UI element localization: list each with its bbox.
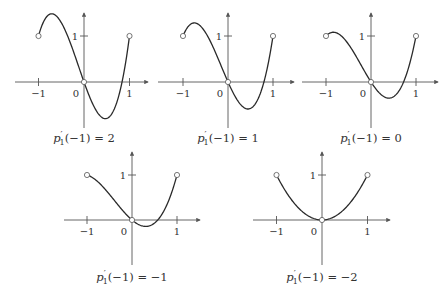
- x-tick-label: 1: [364, 226, 370, 237]
- x-tick-label: 1: [126, 88, 132, 99]
- open-point-marker: [129, 217, 134, 222]
- open-point-marker: [36, 33, 41, 38]
- y-tick-label: 1: [216, 31, 222, 42]
- open-point-marker: [84, 172, 89, 177]
- plot-panel: −1110p′1(−1) = −1: [64, 152, 200, 286]
- x-tick-label: −1: [269, 226, 284, 237]
- open-point-marker: [323, 33, 328, 38]
- origin-label: 0: [217, 88, 223, 99]
- panel-caption: p′1(−1) = −2: [286, 269, 357, 286]
- origin-label: 0: [121, 226, 127, 237]
- panel-caption: p′1(−1) = 2: [53, 130, 115, 147]
- open-point-marker: [81, 79, 86, 84]
- plot-panel: −1110p′1(−1) = −2: [253, 152, 390, 286]
- open-point-marker: [319, 217, 324, 222]
- plot-panel: −1110p′1(−1) = 2: [15, 13, 148, 147]
- plot-panel: −1110p′1(−1) = 0: [302, 13, 438, 147]
- open-point-marker: [127, 33, 132, 38]
- open-point-marker: [365, 172, 370, 177]
- x-tick-label: 1: [174, 226, 180, 237]
- y-tick-label: 1: [359, 31, 365, 42]
- origin-label: 0: [73, 88, 79, 99]
- origin-label: 0: [311, 226, 317, 237]
- panel-caption: p′1(−1) = 1: [197, 130, 259, 147]
- origin-label: 0: [360, 88, 366, 99]
- x-tick-label: −1: [319, 88, 334, 99]
- y-tick-label: 1: [120, 170, 126, 181]
- open-point-marker: [180, 33, 185, 38]
- x-tick-label: −1: [80, 226, 95, 237]
- panel-caption: p′1(−1) = 0: [340, 130, 402, 147]
- y-tick-label: 1: [72, 31, 78, 42]
- x-tick-label: −1: [31, 88, 46, 99]
- open-point-marker: [174, 172, 179, 177]
- open-point-marker: [413, 33, 418, 38]
- open-point-marker: [270, 33, 275, 38]
- panel-caption: p′1(−1) = −1: [96, 269, 167, 286]
- open-point-marker: [274, 172, 279, 177]
- open-point-marker: [225, 79, 230, 84]
- x-tick-label: 1: [413, 88, 419, 99]
- x-tick-label: −1: [176, 88, 191, 99]
- y-tick-label: 1: [310, 170, 316, 181]
- plot-panel: −1110p′1(−1) = 1: [158, 13, 294, 147]
- figure-canvas: −1110p′1(−1) = 2−1110p′1(−1) = 1−1110p′1…: [0, 0, 447, 298]
- open-point-marker: [368, 79, 373, 84]
- x-tick-label: 1: [270, 88, 276, 99]
